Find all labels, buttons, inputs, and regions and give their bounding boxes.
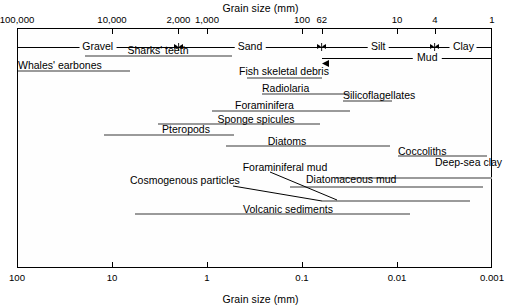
- top-tick-label-1: 10,000: [97, 14, 126, 25]
- figure-root: Grain size (mm) 100,00010,0002,0001,0001…: [0, 0, 521, 308]
- bar-deep-sea-clay: [452, 177, 492, 179]
- mud-rule: [322, 58, 492, 59]
- bar-label-deep-sea-clay: Deep-sea clay: [435, 156, 502, 168]
- bottom-tick-mark-4: [397, 262, 398, 268]
- top-tick-label-8: 1: [489, 14, 494, 25]
- bottom-tick-label-3: 0.1: [295, 272, 308, 283]
- bottom-axis-title: Grain size (mm): [0, 293, 521, 305]
- bottom-tick-label-4: 0.01: [388, 272, 407, 283]
- mud-label: Mud: [413, 51, 441, 63]
- bottom-tick-label-0: 100: [9, 272, 25, 283]
- bar-label-whales-earbones: Whales' earbones: [18, 59, 102, 71]
- bar-label-diatoms: Diatoms: [268, 135, 307, 147]
- top-tick-label-6: 10: [392, 14, 403, 25]
- bar-label-cosmogenous-particles: Cosmogenous particles: [130, 174, 240, 186]
- top-axis-title: Grain size (mm): [0, 2, 521, 14]
- top-tick-mark-2: [178, 28, 179, 34]
- bottom-tick-label-2: 1: [204, 272, 209, 283]
- bottom-tick-label-1: 10: [107, 272, 118, 283]
- top-tick-mark-7: [435, 28, 436, 34]
- bar-label-foraminifera: Foraminifera: [235, 99, 294, 111]
- bottom-tick-mark-1: [112, 262, 113, 268]
- top-tick-mark-4: [302, 28, 303, 34]
- size-class-label-silt: Silt: [368, 40, 389, 52]
- bar-label-volcanic-sediments: Volcanic sediments: [243, 203, 333, 215]
- top-tick-mark-5: [322, 28, 323, 34]
- size-class-label-gravel: Gravel: [79, 40, 116, 52]
- bottom-tick-mark-3: [302, 262, 303, 268]
- top-tick-label-4: 100: [294, 14, 310, 25]
- top-tick-label-3: 1,000: [195, 14, 219, 25]
- bar-label-radiolaria: Radiolaria: [262, 82, 309, 94]
- top-tick-label-5: 62: [316, 14, 327, 25]
- top-tick-mark-1: [112, 28, 113, 34]
- bar-label-sharks-teeth: Sharks' teeth: [128, 44, 189, 56]
- top-tick-mark-3: [207, 28, 208, 34]
- bar-label-fish-skeletal-debris: Fish skeletal debris: [239, 65, 329, 77]
- bar-label-foraminiferal-mud: Foraminiferal mud: [243, 161, 328, 173]
- bar-diatoms: [226, 145, 390, 147]
- bar-diatomaceous-mud: [290, 186, 483, 188]
- bar-label-silicoflagellates: Silicoflagellates: [343, 89, 415, 101]
- mud-left-arrowhead-icon: [322, 54, 330, 63]
- bar-label-pteropods: Pteropods: [162, 123, 210, 135]
- top-tick-label-2: 2,000: [166, 14, 190, 25]
- size-class-label-clay: Clay: [450, 40, 477, 52]
- bar-label-diatomaceous-mud: Diatomaceous mud: [306, 173, 396, 185]
- top-tick-label-0: 100,000: [0, 14, 34, 25]
- bar-label-sponge-spicules: Sponge spicules: [217, 113, 294, 125]
- bottom-tick-label-5: 0.001: [480, 272, 504, 283]
- bottom-tick-mark-2: [207, 262, 208, 268]
- bar-cosmogenous-particles: [322, 200, 470, 202]
- bar-fish-skeletal-debris: [247, 77, 322, 79]
- size-class-label-sand: Sand: [235, 40, 266, 52]
- size-class-boundary-marker-2: [430, 43, 439, 51]
- top-tick-mark-6: [397, 28, 398, 34]
- size-class-boundary-marker-1: [317, 43, 326, 51]
- top-tick-label-7: 4: [432, 14, 437, 25]
